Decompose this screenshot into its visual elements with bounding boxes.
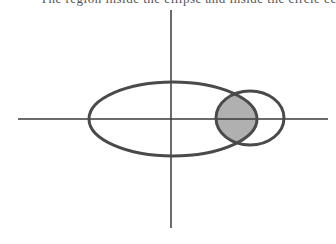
diagram-canvas	[0, 0, 336, 244]
